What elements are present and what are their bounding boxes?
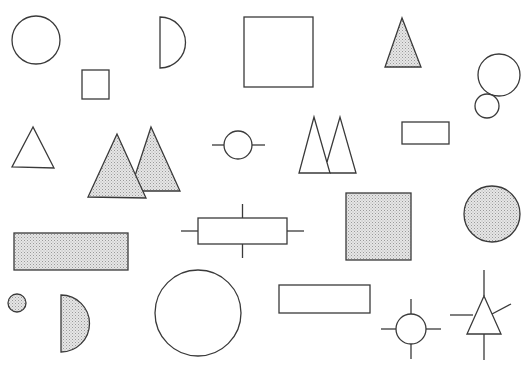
circle-outline-large-top-left — [12, 16, 60, 64]
triangle-outline-left — [12, 127, 54, 168]
square-outline-small — [82, 70, 109, 99]
triangle-with-leads — [450, 270, 511, 360]
circle-with-four-leads — [381, 299, 441, 359]
triangle-outline-pair-second — [327, 117, 356, 173]
circle-pair-large — [478, 54, 520, 96]
triangle-shaded-pair-front — [88, 134, 146, 198]
rect-outline-bottom — [279, 285, 370, 313]
circle-pair-small — [475, 94, 499, 118]
half-circle-shaded — [61, 295, 90, 352]
triangle-outline-pair-first — [299, 117, 330, 173]
rect-shaded-wide — [14, 233, 128, 270]
rect-outline-small-right — [402, 122, 449, 144]
triangle-shaded-top — [385, 18, 421, 67]
circle-shaded-right — [464, 186, 520, 242]
circle-shaded-tiny — [8, 294, 26, 312]
half-circle-outline — [160, 17, 186, 68]
square-shaded — [346, 193, 411, 260]
shapes-layer — [8, 16, 520, 360]
rect-with-four-leads — [181, 204, 304, 258]
square-outline-large — [244, 17, 313, 87]
lead-line — [492, 304, 511, 314]
shapes-diagram-canvas — [0, 0, 531, 373]
circle-with-horizontal-leads — [212, 131, 265, 159]
circle-outline-large-bottom — [155, 270, 241, 356]
